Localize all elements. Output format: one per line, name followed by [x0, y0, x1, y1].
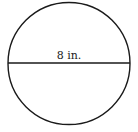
diameter-label: 8 in. [57, 49, 82, 62]
circle-diagram: 8 in. [0, 0, 138, 132]
